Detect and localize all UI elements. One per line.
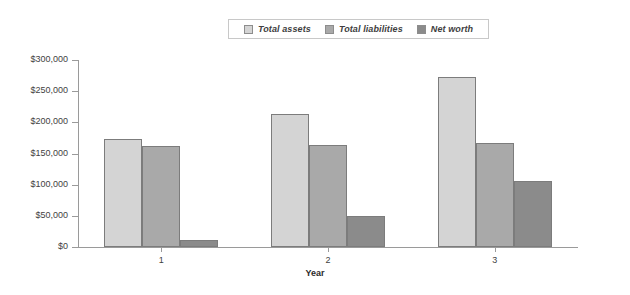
x-axis-tick-label: 1 <box>141 255 181 265</box>
bar-total-liabilities-year-2 <box>309 145 347 247</box>
legend-label-total-assets: Total assets <box>258 24 311 34</box>
x-axis-tick <box>161 248 162 252</box>
y-axis-tick-label: $100,000 <box>0 179 68 189</box>
bar-total-liabilities-year-1 <box>142 146 180 247</box>
chart-legend: Total assets Total liabilities Net worth <box>228 19 489 39</box>
bar-net-worth-year-2 <box>347 216 385 247</box>
legend-swatch-total-liabilities <box>325 25 334 34</box>
bar-chart: Total assets Total liabilities Net worth… <box>0 0 630 295</box>
x-axis-title: Year <box>0 268 630 278</box>
bar-total-assets-year-3 <box>438 77 476 247</box>
plot-area <box>78 60 578 247</box>
legend-item-total-assets: Total assets <box>244 24 311 34</box>
y-axis-tick-label: $250,000 <box>0 85 68 95</box>
bar-net-worth-year-3 <box>514 181 552 247</box>
x-axis-tick-label: 3 <box>475 255 515 265</box>
bar-total-liabilities-year-3 <box>476 143 514 247</box>
legend-label-total-liabilities: Total liabilities <box>339 24 403 34</box>
bar-total-assets-year-1 <box>104 139 142 247</box>
y-axis-tick-label: $50,000 <box>0 210 68 220</box>
legend-swatch-net-worth <box>417 25 426 34</box>
y-axis-tick <box>72 247 78 248</box>
x-axis-tick <box>495 248 496 252</box>
y-axis-tick-label: $0 <box>0 241 68 251</box>
y-axis-tick-label: $300,000 <box>0 54 68 64</box>
legend-item-total-liabilities: Total liabilities <box>325 24 403 34</box>
x-axis-tick-label: 2 <box>308 255 348 265</box>
bar-net-worth-year-1 <box>180 240 218 247</box>
bar-total-assets-year-2 <box>271 114 309 247</box>
y-axis-tick-label: $200,000 <box>0 116 68 126</box>
legend-label-net-worth: Net worth <box>431 24 473 34</box>
x-axis-tick <box>328 248 329 252</box>
y-axis-tick-label: $150,000 <box>0 148 68 158</box>
legend-swatch-total-assets <box>244 25 253 34</box>
legend-item-net-worth: Net worth <box>417 24 473 34</box>
